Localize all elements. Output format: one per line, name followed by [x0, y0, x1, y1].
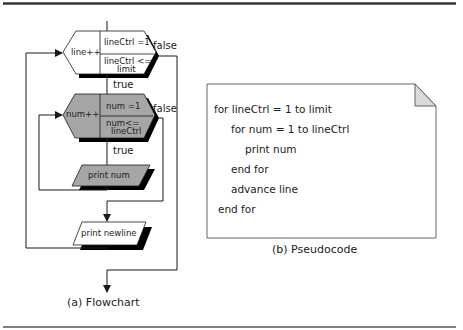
outer-true-label: true	[113, 80, 134, 90]
inner-false-label: false	[153, 104, 177, 114]
outer-increment-label: line++	[71, 48, 101, 57]
pseudocode-line: advance line	[231, 184, 298, 195]
pseudocode-caption: (b) Pseudocode	[272, 244, 357, 255]
flowchart-caption: (a) Flowchart	[67, 297, 140, 308]
outer-init-label: lineCtrl =1	[104, 38, 150, 47]
print-newline-label: print newline	[81, 229, 137, 238]
pseudocode-line: print num	[245, 144, 297, 155]
inner-true-label: true	[113, 146, 134, 156]
pseudocode-line: end for	[231, 164, 269, 175]
inner-init-label: num =1	[106, 102, 140, 111]
outer-loopback-line	[26, 53, 107, 250]
outer-false-label: false	[153, 41, 177, 51]
pseudocode-line: for lineCtrl = 1 to limit	[214, 104, 332, 115]
pseudocode-line: for num = 1 to lineCtrl	[231, 124, 349, 135]
outer-condition-line2: limit	[117, 65, 136, 74]
print-num-label: print num	[88, 171, 130, 180]
folded-corner	[415, 84, 436, 106]
inner-increment-label: num++	[66, 110, 99, 119]
inner-condition-line2: lineCtrl	[111, 127, 141, 136]
pseudocode-line: end for	[218, 204, 256, 215]
